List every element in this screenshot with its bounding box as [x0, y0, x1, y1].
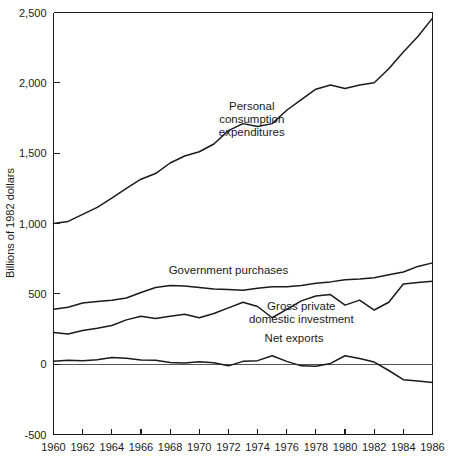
y-tick-label: 2,500: [19, 7, 47, 19]
x-tick-label: 1972: [216, 441, 240, 453]
x-tick-label: 1966: [129, 441, 153, 453]
line-chart: -50005001,0001,5002,0002,500 19601962196…: [0, 0, 449, 471]
x-tick-label: 1974: [245, 441, 269, 453]
x-tick-label: 1982: [362, 441, 386, 453]
y-tick-label: 2,000: [19, 77, 47, 89]
y-axis-title-text: Billions of 1982 dollars: [4, 167, 16, 278]
chart-figure: -50005001,0001,5002,0002,500 19601962196…: [0, 0, 449, 471]
plot-border: [54, 13, 433, 435]
x-tick-label: 1980: [333, 441, 357, 453]
x-tick-label: 1970: [187, 441, 211, 453]
x-axis-ticks: [83, 429, 404, 435]
y-tick-label: 500: [28, 288, 46, 300]
axis-frame: [54, 13, 433, 435]
y-axis-tick-labels: -50005001,0001,5002,0002,500: [19, 7, 47, 441]
series-line-gross-private-domestic-investment: [54, 281, 433, 334]
x-tick-label: 1978: [304, 441, 328, 453]
series-annotations: PersonalconsumptionexpendituresGovernmen…: [169, 100, 355, 344]
y-tick-label: 1,000: [19, 218, 47, 230]
x-tick-label: 1968: [158, 441, 182, 453]
series-label-net-exports: Net exports: [265, 332, 324, 344]
x-tick-label: 1984: [391, 441, 415, 453]
y-tick-label: -500: [24, 429, 46, 441]
data-series-lines: [54, 18, 433, 382]
y-tick-label: 0: [40, 358, 46, 370]
series-label-personal-consumption-expenditures: Personalconsumptionexpenditures: [219, 100, 285, 138]
series-line-net-exports: [54, 356, 433, 383]
x-tick-label: 1976: [274, 441, 298, 453]
series-label-government-purchases: Government purchases: [169, 264, 289, 276]
x-axis-tick-labels: 1960196219641966196819701972197419761978…: [41, 441, 444, 453]
x-tick-label: 1962: [70, 441, 94, 453]
y-tick-label: 1,500: [19, 147, 47, 159]
series-label-gross-private-domestic-investment: Gross privatedomestic investment: [249, 300, 355, 325]
x-tick-label: 1964: [100, 441, 124, 453]
x-tick-label: 1986: [420, 441, 444, 453]
y-axis-title: Billions of 1982 dollars: [4, 167, 16, 278]
x-tick-label: 1960: [41, 441, 65, 453]
